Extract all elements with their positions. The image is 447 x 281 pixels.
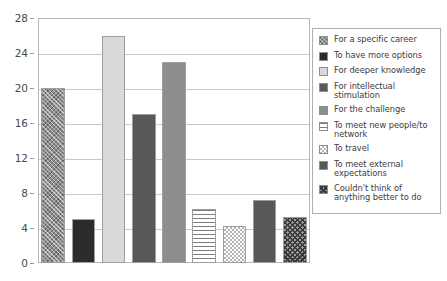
legend-item-label: Couldn't think of anything better to do: [334, 184, 435, 203]
legend-swatch-icon: [319, 36, 328, 45]
y-axis-tick-label: 12: [15, 153, 28, 164]
y-axis-tick-label: 0: [21, 258, 28, 269]
legend-item-label: To travel: [334, 144, 369, 154]
legend-item-label: For intellectual stimulation: [334, 82, 435, 101]
legend-item: To meet external expectations: [319, 160, 435, 179]
y-axis-tick-mark: [30, 88, 34, 89]
y-axis-tick-mark: [30, 193, 34, 194]
bar: [162, 62, 186, 263]
bar: [41, 88, 65, 263]
bar: [102, 36, 126, 264]
legend-swatch-icon: [319, 106, 328, 115]
legend-swatch-icon: [319, 67, 328, 76]
chart-legend: For a specific careerTo have more option…: [312, 28, 441, 214]
legend-item: To have more options: [319, 51, 435, 62]
legend-item-label: For the challenge: [334, 105, 405, 115]
legend-swatch-icon: [319, 161, 328, 170]
legend-item: For a specific career: [319, 35, 435, 46]
y-axis-tick-label: 24: [15, 48, 28, 59]
legend-item: To meet new people/to network: [319, 121, 435, 140]
legend-item: For intellectual stimulation: [319, 82, 435, 101]
y-axis-tick-mark: [30, 53, 34, 54]
legend-item-label: For a specific career: [334, 35, 417, 45]
legend-item: To travel: [319, 144, 435, 155]
legend-swatch-icon: [319, 52, 328, 61]
legend-swatch-icon: [319, 185, 328, 194]
bar-chart: 0481216202428 For a specific careerTo ha…: [0, 0, 447, 281]
y-axis-tick-mark: [30, 263, 34, 264]
bar: [132, 114, 156, 263]
legend-swatch-icon: [319, 122, 328, 131]
y-axis-tick-mark: [30, 228, 34, 229]
bar: [72, 219, 96, 263]
y-axis: 0481216202428: [0, 18, 34, 263]
legend-item-label: To meet external expectations: [334, 160, 435, 179]
y-axis-tick-mark: [30, 123, 34, 124]
y-axis-tick-label: 20: [15, 83, 28, 94]
legend-item-label: To have more options: [334, 51, 422, 61]
bars-layer: [38, 18, 310, 263]
y-axis-tick-label: 4: [21, 223, 28, 234]
legend-item: For the challenge: [319, 105, 435, 116]
legend-swatch-icon: [319, 145, 328, 154]
y-axis-tick-mark: [30, 158, 34, 159]
y-axis-tick-mark: [30, 18, 34, 19]
legend-swatch-icon: [319, 83, 328, 92]
bar: [283, 217, 307, 263]
bar: [223, 226, 247, 263]
y-axis-tick-label: 28: [15, 13, 28, 24]
legend-item-label: To meet new people/to network: [334, 121, 435, 140]
legend-item-label: For deeper knowledge: [334, 66, 425, 76]
bar: [253, 200, 277, 263]
bar: [192, 209, 216, 263]
legend-item: For deeper knowledge: [319, 66, 435, 77]
y-axis-tick-label: 16: [15, 118, 28, 129]
y-axis-tick-label: 8: [21, 188, 28, 199]
legend-item: Couldn't think of anything better to do: [319, 184, 435, 203]
